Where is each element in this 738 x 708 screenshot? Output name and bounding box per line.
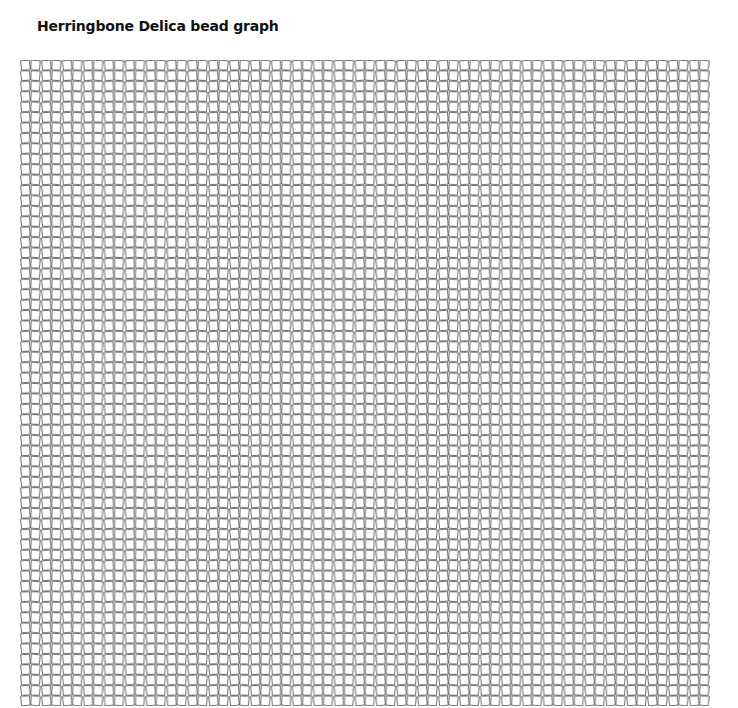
page-title: Herringbone Delica bead graph bbox=[37, 18, 279, 34]
bead-graph-grid bbox=[20, 60, 710, 706]
herringbone-pattern-fill bbox=[20, 60, 710, 706]
